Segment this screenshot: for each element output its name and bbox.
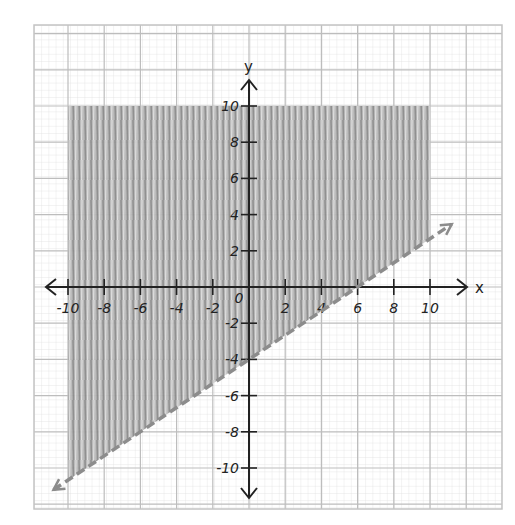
x-tick-label: 6	[353, 300, 362, 316]
x-tick-label: -4	[170, 300, 184, 316]
y-tick-label: 8	[230, 134, 239, 150]
x-tick-label: -8	[97, 300, 111, 316]
y-tick-label: -6	[225, 388, 239, 404]
y-axis-label: y	[244, 58, 253, 76]
y-tick-label: 4	[230, 207, 239, 223]
x-tick-label: -6	[133, 300, 147, 316]
graph-inequality: -10-8-6-4-20246810-10-8-6-4-2246810 x y	[0, 0, 515, 525]
y-tick-label: -8	[225, 424, 239, 440]
y-tick-label: -10	[216, 460, 239, 476]
y-tick-label: 2	[230, 243, 239, 259]
x-tick-label: 2	[281, 300, 290, 316]
y-tick-label: 6	[230, 170, 239, 186]
x-tick-label: 0	[235, 290, 244, 306]
x-tick-label: -10	[57, 300, 80, 316]
y-tick-label: -4	[225, 351, 239, 367]
x-tick-label: -2	[206, 300, 220, 316]
x-axis-label: x	[475, 279, 484, 297]
y-tick-label: -2	[225, 315, 239, 331]
y-tick-label: 10	[221, 98, 239, 114]
x-tick-label: 10	[421, 300, 439, 316]
x-tick-label: 8	[389, 300, 398, 316]
